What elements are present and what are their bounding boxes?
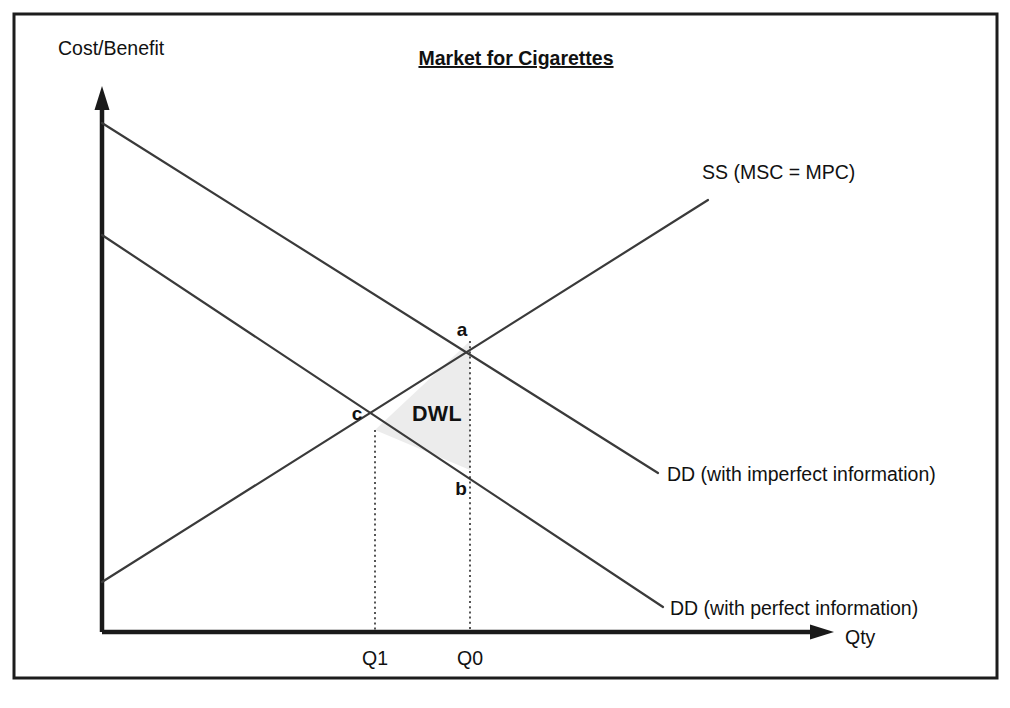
y-axis-arrowhead [95,86,110,110]
x-tick-label-q1: Q1 [362,647,388,669]
supply-curve-ss [102,200,708,582]
y-axis-label: Cost/Benefit [58,37,165,59]
dwl-region-label: DWL [412,402,462,426]
supply-curve-label: SS (MSC = MPC) [702,161,855,183]
economics-diagram-figure: Cost/Benefit Qty Market for Cigarettes S… [0,0,1010,708]
diagram-title: Market for Cigarettes [418,47,613,69]
x-axis-label: Qty [845,626,876,648]
point-label-b: b [455,478,467,499]
demand-imperfect-label: DD (with imperfect information) [667,463,936,485]
demand-perfect-label: DD (with perfect information) [670,597,918,619]
point-label-c: c [352,403,363,424]
figure-border [14,14,997,678]
x-axis-arrowhead [810,625,834,640]
point-label-a: a [457,319,468,340]
market-for-cigarettes-diagram: Cost/Benefit Qty Market for Cigarettes S… [0,0,1010,708]
demand-curve-perfect-information [102,235,663,607]
x-tick-label-q0: Q0 [457,647,483,669]
